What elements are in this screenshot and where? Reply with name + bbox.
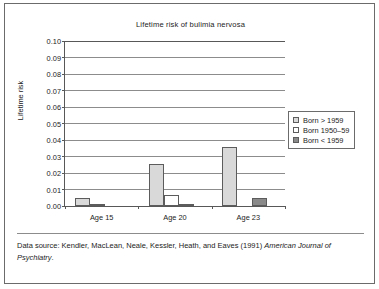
bars-layer: Age 15Age 20Age 23 <box>65 41 285 206</box>
bar <box>164 195 179 206</box>
caption-period: . <box>52 253 54 262</box>
y-axis-tick-label: 0.08 <box>47 70 61 79</box>
x-axis-tick-mark <box>212 206 213 209</box>
legend-item: Born < 1959 <box>293 135 349 145</box>
bar <box>222 147 237 206</box>
x-axis-tick-mark <box>65 206 66 209</box>
y-axis-tick-label: 0.07 <box>47 86 61 95</box>
legend-swatch-icon <box>293 117 299 123</box>
y-axis-tick-label: 0.10 <box>47 37 61 46</box>
legend-item-label: Born 1950–59 <box>303 126 349 135</box>
legend-item-label: Born > 1959 <box>303 116 343 125</box>
caption-source-text: Data source: Kendler, MacLean, Neale, Ke… <box>17 241 262 250</box>
y-axis-tick-label: 0.01 <box>47 185 61 194</box>
y-axis-tick-label: 0.03 <box>47 152 61 161</box>
x-axis-category-label: Age 23 <box>237 213 260 222</box>
bar-group <box>75 41 120 206</box>
legend-swatch-icon <box>293 127 299 133</box>
x-axis-category-label: Age 20 <box>163 213 186 222</box>
chart-legend: Born > 1959Born 1950–59Born < 1959 <box>288 111 355 149</box>
y-axis-tick-label: 0.04 <box>47 136 61 145</box>
bar-group <box>149 41 194 206</box>
y-axis-tick-label: 0.09 <box>47 53 61 62</box>
y-axis-tick-label: 0.00 <box>47 202 61 211</box>
y-axis-tick-label: 0.05 <box>47 119 61 128</box>
x-axis-tick-mark <box>285 206 286 209</box>
bar <box>149 164 164 206</box>
figure-panel: Lifetime risk of bulimia nervosa Lifetim… <box>4 3 375 284</box>
caption-divider <box>17 233 364 234</box>
legend-item: Born 1950–59 <box>293 125 349 135</box>
bar <box>90 204 105 206</box>
legend-swatch-icon <box>293 137 299 143</box>
legend-item: Born > 1959 <box>293 115 349 125</box>
bar <box>252 198 267 206</box>
legend-item-label: Born < 1959 <box>303 136 343 145</box>
chart-title: Lifetime risk of bulimia nervosa <box>5 20 376 29</box>
y-axis-tick-label: 0.06 <box>47 103 61 112</box>
x-axis-category-label: Age 15 <box>90 213 113 222</box>
bar-group <box>222 41 267 206</box>
bar <box>179 204 194 206</box>
figure-caption: Data source: Kendler, MacLean, Neale, Ke… <box>17 240 365 263</box>
plot-area: 0.000.010.020.030.040.050.060.070.080.09… <box>64 41 285 207</box>
y-axis-title: Lifetime risk <box>16 66 25 136</box>
x-axis-tick-mark <box>138 206 139 209</box>
bar <box>75 198 90 206</box>
y-axis-tick-label: 0.02 <box>47 169 61 178</box>
